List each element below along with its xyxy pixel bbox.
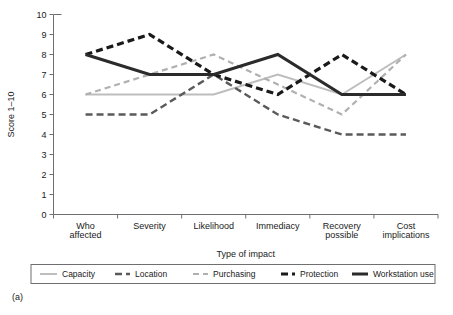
x-tick-label: affected: [70, 230, 102, 240]
x-tick-label: implications: [382, 230, 430, 240]
y-axis: 012345678910: [36, 10, 53, 220]
y-tick-label: 5: [41, 110, 46, 120]
x-axis-title: Type of impact: [216, 249, 275, 259]
legend-label-location: Location: [135, 269, 167, 279]
y-tick-label: 9: [41, 30, 46, 40]
line-chart: 012345678910Score 1–10WhoaffectedSeverit…: [0, 0, 453, 315]
legend-label-purchasing: Purchasing: [213, 269, 256, 279]
x-tick-label: Recovery: [323, 221, 362, 231]
y-axis-title: Score 1–10: [6, 91, 16, 137]
panel-label: (a): [12, 292, 23, 302]
x-tick-label: Who: [76, 221, 95, 231]
x-tick-label: possible: [325, 230, 358, 240]
x-tick-label: Immediacy: [256, 221, 300, 231]
y-tick-label: 2: [41, 170, 46, 180]
y-tick-label: 8: [41, 50, 46, 60]
figure-panel: 012345678910Score 1–10WhoaffectedSeverit…: [0, 0, 453, 315]
x-tick-label: Severity: [133, 221, 166, 231]
y-tick-label: 6: [41, 90, 46, 100]
series-line-capacity: [86, 55, 406, 95]
legend-label-protection: Protection: [300, 269, 339, 279]
chart-legend: CapacityLocationPurchasingProtectionWork…: [31, 265, 435, 284]
x-tick-label: Likelihood: [193, 221, 234, 231]
x-tick-label: Cost: [397, 221, 416, 231]
y-tick-label: 3: [41, 150, 46, 160]
x-axis: WhoaffectedSeverityLikelihoodImmediacyRe…: [54, 215, 439, 241]
y-tick-label: 10: [36, 10, 46, 20]
legend-label-capacity: Capacity: [62, 269, 96, 279]
series-group: [86, 35, 406, 135]
series-line-workstation-use: [86, 55, 406, 95]
legend-label-workstation-use: Workstation use: [373, 269, 434, 279]
y-tick-label: 7: [41, 70, 46, 80]
y-tick-label: 4: [41, 130, 46, 140]
y-tick-label: 1: [41, 190, 46, 200]
y-tick-label: 0: [41, 210, 46, 220]
